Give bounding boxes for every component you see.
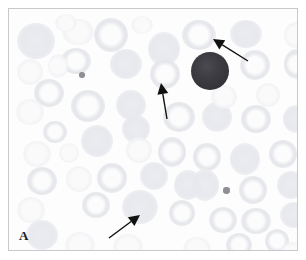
- red-blood-cell: [241, 208, 271, 234]
- blood-smear-cell-field: [9, 9, 297, 250]
- red-blood-cell: [131, 16, 153, 34]
- red-blood-cell: [140, 162, 168, 190]
- red-blood-cell: [48, 54, 68, 78]
- red-blood-cell: [256, 83, 280, 107]
- red-blood-cell: [122, 190, 158, 224]
- red-blood-cell: [97, 163, 127, 193]
- red-blood-cell: [66, 166, 92, 192]
- red-blood-cell: [183, 237, 211, 250]
- micrograph-frame: A: [8, 8, 298, 251]
- red-blood-cell: [27, 167, 57, 195]
- red-blood-cell: [94, 18, 128, 52]
- red-blood-cell: [23, 141, 51, 167]
- red-blood-cell: [126, 137, 152, 163]
- red-blood-cell: [269, 140, 297, 168]
- red-blood-cell: [55, 14, 77, 32]
- red-blood-cell: [16, 99, 44, 125]
- red-blood-cell: [110, 49, 142, 79]
- red-blood-cell: [81, 125, 113, 157]
- red-blood-cell: [241, 105, 271, 133]
- red-blood-cell: [230, 143, 260, 175]
- red-blood-cell: [26, 220, 58, 250]
- red-blood-cell: [113, 234, 143, 250]
- red-blood-cell: [280, 202, 297, 228]
- red-blood-cell: [230, 20, 262, 48]
- red-blood-cell: [82, 192, 110, 218]
- red-blood-cell: [239, 176, 267, 204]
- red-blood-cell: [284, 22, 297, 48]
- red-blood-cell: [240, 50, 270, 80]
- platelet: [79, 72, 85, 78]
- red-blood-cell: [65, 232, 95, 250]
- platelet: [223, 187, 230, 194]
- red-blood-cell: [209, 207, 237, 233]
- red-blood-cell: [277, 171, 297, 199]
- red-blood-cell: [17, 23, 55, 59]
- red-blood-cell: [169, 200, 195, 226]
- red-blood-cell: [71, 90, 105, 122]
- red-blood-cell: [163, 102, 195, 132]
- red-blood-cell: [284, 49, 297, 79]
- red-blood-cell: [191, 169, 219, 201]
- red-blood-cell: [43, 121, 67, 143]
- red-blood-cell: [182, 20, 216, 50]
- red-blood-cell: [150, 59, 180, 89]
- leukocyte-cell: [191, 52, 229, 90]
- red-blood-cell: [283, 105, 297, 133]
- red-blood-cell: [158, 137, 186, 167]
- red-blood-cell: [193, 143, 221, 171]
- red-blood-cell: [59, 143, 79, 163]
- figure-root: A: [0, 0, 306, 260]
- red-blood-cell: [226, 233, 252, 250]
- panel-label: A: [19, 229, 28, 242]
